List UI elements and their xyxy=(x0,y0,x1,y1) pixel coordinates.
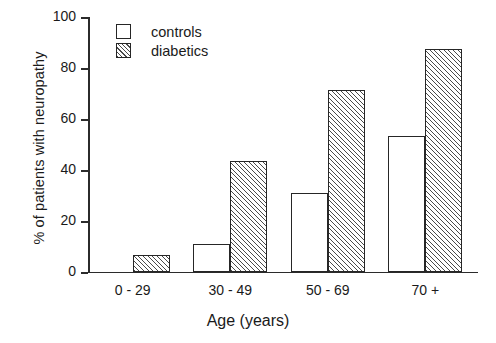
bar-controls-3 xyxy=(388,136,425,272)
y-tick-label: 0 xyxy=(68,263,76,279)
x-tick-label-0: 0 - 29 xyxy=(96,282,170,298)
legend-label-controls: controls xyxy=(151,24,202,40)
x-tick-label-2: 50 - 69 xyxy=(291,282,365,298)
y-tick-mark xyxy=(81,119,88,121)
y-tick-label: 80 xyxy=(60,59,76,75)
y-tick-label: 20 xyxy=(60,212,76,228)
y-axis-title: % of patients with neuropathy xyxy=(31,13,47,283)
legend-item-diabetics: diabetics xyxy=(116,41,208,60)
legend-label-diabetics: diabetics xyxy=(151,43,208,59)
y-tick-mark xyxy=(81,170,88,172)
bar-diabetics-2 xyxy=(328,90,365,272)
x-tick-label-1: 30 - 49 xyxy=(193,282,267,298)
bar-group xyxy=(283,17,381,272)
x-tick-label-3: 70 + xyxy=(388,282,462,298)
bar-diabetics-3 xyxy=(425,49,462,272)
y-tick-mark xyxy=(81,17,88,19)
y-tick-label: 40 xyxy=(60,161,76,177)
x-axis-title: Age (years) xyxy=(0,312,496,330)
y-tick-label: 100 xyxy=(53,8,76,24)
y-tick-mark xyxy=(81,221,88,223)
y-tick-label: 60 xyxy=(60,110,76,126)
bar-diabetics-1 xyxy=(230,161,267,272)
legend: controls diabetics xyxy=(116,22,208,60)
bar-controls-1 xyxy=(193,244,230,272)
bar-controls-2 xyxy=(291,193,328,272)
legend-swatch-open-box xyxy=(116,24,131,39)
bar-group xyxy=(381,17,479,272)
legend-swatch-hatched-box xyxy=(116,43,131,58)
bar-chart: % of patients with neuropathy 0204060801… xyxy=(0,0,496,343)
legend-item-controls: controls xyxy=(116,22,208,41)
y-tick-mark xyxy=(81,272,88,274)
y-tick-mark xyxy=(81,68,88,70)
bar-diabetics-0 xyxy=(133,255,170,272)
